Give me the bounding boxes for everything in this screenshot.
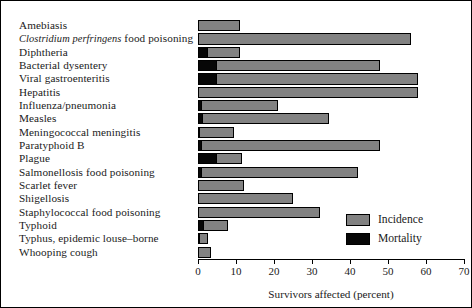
x-axis-tick-label: 30 bbox=[307, 265, 318, 277]
bar-incidence bbox=[198, 100, 278, 111]
category-label: Diphtheria bbox=[19, 46, 195, 59]
x-axis-tick bbox=[464, 259, 465, 264]
bar-row bbox=[198, 59, 464, 72]
chart-figure: AmebiasisClostridium perfringens food po… bbox=[0, 0, 472, 308]
category-label: Meningococcal meningitis bbox=[19, 126, 195, 139]
bar-incidence bbox=[198, 60, 380, 71]
bar-row bbox=[198, 192, 464, 205]
category-label: Typhus, epidemic louse–borne bbox=[19, 232, 195, 245]
category-label: Shigellosis bbox=[19, 192, 195, 205]
category-label: Bacterial dysentery bbox=[19, 59, 195, 72]
bar-row bbox=[198, 32, 464, 45]
x-axis-tick-label: 50 bbox=[383, 265, 394, 277]
bar-mortality bbox=[198, 167, 202, 178]
bar-mortality bbox=[198, 127, 200, 138]
bar-mortality bbox=[198, 60, 217, 71]
bar-incidence bbox=[198, 87, 418, 98]
x-axis-tick-label: 0 bbox=[195, 265, 201, 277]
bar-mortality bbox=[198, 140, 202, 151]
x-axis-tick-label: 40 bbox=[345, 265, 356, 277]
bar-mortality bbox=[198, 113, 203, 124]
bar-incidence bbox=[198, 167, 358, 178]
legend-item-mortality: Mortality bbox=[346, 229, 456, 248]
x-axis-tick bbox=[388, 259, 389, 264]
bar-incidence bbox=[198, 180, 244, 191]
category-label: Measles bbox=[19, 112, 195, 125]
x-axis-tick-label: 10 bbox=[231, 265, 242, 277]
x-axis-tick-label: 20 bbox=[269, 265, 280, 277]
x-axis-line bbox=[198, 259, 464, 260]
bar-mortality bbox=[198, 233, 200, 244]
category-label: Amebiasis bbox=[19, 19, 195, 32]
bar-incidence bbox=[198, 140, 380, 151]
x-axis-tick bbox=[350, 259, 351, 264]
bar-mortality bbox=[198, 73, 217, 84]
category-label: Typhoid bbox=[19, 219, 195, 232]
bar-row bbox=[198, 179, 464, 192]
bar-incidence bbox=[198, 207, 320, 218]
x-axis-tick bbox=[198, 259, 199, 264]
x-axis-tick-label: 70 bbox=[459, 265, 470, 277]
bar-row bbox=[198, 19, 464, 32]
bar-incidence bbox=[198, 127, 234, 138]
category-label: Salmonellosis food poisoning bbox=[19, 166, 195, 179]
bar-mortality bbox=[198, 220, 204, 231]
bar-row bbox=[198, 46, 464, 59]
bar-row bbox=[198, 126, 464, 139]
bar-mortality bbox=[198, 47, 208, 58]
bar-row bbox=[198, 152, 464, 165]
category-label: Staphylococcal food poisoning bbox=[19, 206, 195, 219]
bar-row bbox=[198, 112, 464, 125]
x-axis-tick bbox=[236, 259, 237, 264]
bar-row bbox=[198, 99, 464, 112]
bar-row bbox=[198, 166, 464, 179]
category-label: Hepatitis bbox=[19, 86, 195, 99]
bar-incidence bbox=[198, 193, 293, 204]
legend-swatch-mortality bbox=[346, 233, 370, 245]
category-label-italic: Clostridium perfringens bbox=[19, 33, 121, 44]
x-axis-tick-label: 60 bbox=[421, 265, 432, 277]
category-label: Plague bbox=[19, 152, 195, 165]
bar-incidence bbox=[198, 247, 211, 258]
category-axis-labels: AmebiasisClostridium perfringens food po… bbox=[19, 19, 195, 259]
bar-incidence bbox=[198, 33, 411, 44]
legend-label-mortality: Mortality bbox=[378, 232, 422, 245]
bar-incidence bbox=[198, 73, 418, 84]
bar-mortality bbox=[198, 153, 217, 164]
legend-label-incidence: Incidence bbox=[378, 213, 423, 226]
bar-incidence bbox=[198, 20, 240, 31]
bar-mortality bbox=[198, 100, 202, 111]
category-label: Influenza/pneumonia bbox=[19, 99, 195, 112]
category-label: Paratyphoid B bbox=[19, 139, 195, 152]
legend-swatch-incidence bbox=[346, 214, 370, 226]
category-label: Clostridium perfringens food poisoning bbox=[19, 32, 195, 45]
x-axis-tick bbox=[426, 259, 427, 264]
category-label: Viral gastroenteritis bbox=[19, 72, 195, 85]
x-axis-tick bbox=[274, 259, 275, 264]
chart-legend: Incidence Mortality bbox=[346, 210, 456, 248]
bar-incidence bbox=[198, 113, 329, 124]
bar-row bbox=[198, 139, 464, 152]
bar-row bbox=[198, 72, 464, 85]
x-axis-tick bbox=[312, 259, 313, 264]
category-label: Scarlet fever bbox=[19, 179, 195, 192]
bar-row bbox=[198, 86, 464, 99]
legend-item-incidence: Incidence bbox=[346, 210, 456, 229]
category-label: Whooping cough bbox=[19, 246, 195, 259]
x-axis-title: Survivors affected (percent) bbox=[198, 288, 464, 300]
